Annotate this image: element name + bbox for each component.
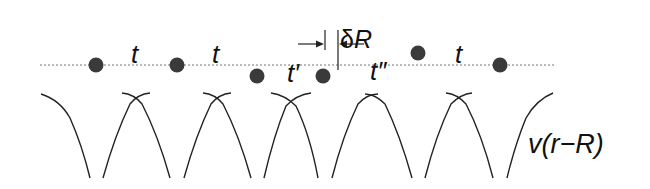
potential-curve-8	[365, 94, 412, 178]
atom-6	[493, 58, 508, 73]
atom-3	[250, 69, 265, 84]
hopping-label-t-1: t	[131, 39, 140, 69]
atom-5	[411, 46, 426, 61]
atom-2	[170, 58, 185, 73]
potential-label: v(r−R)	[528, 129, 604, 159]
hopping-label-t-prime: t′	[287, 58, 300, 88]
hopping-label-t-double-prime: t″	[370, 56, 387, 86]
hopping-label-t-3: t	[455, 39, 464, 69]
hopping-label-t-2: t	[212, 39, 221, 69]
left-arrow-head	[316, 41, 324, 48]
tight-binding-diagram: δR t t t′ t″ t v(r−R)	[0, 0, 650, 189]
atom-1	[89, 58, 104, 73]
potential-curve-5	[264, 93, 311, 178]
displacement-label: δR	[340, 25, 372, 53]
atom-4	[316, 69, 331, 84]
potential-curve-7	[332, 94, 378, 178]
potential-curve-6	[271, 93, 318, 178]
potential-curve-left-edge	[41, 94, 90, 178]
potential-curve-9	[425, 93, 472, 178]
atomic-potentials	[41, 93, 553, 178]
potential-curve-10	[446, 93, 493, 178]
